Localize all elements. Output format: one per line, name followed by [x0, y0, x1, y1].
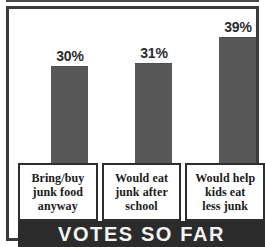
category-line-3-1: Would help: [195, 171, 255, 185]
bar-rect-3: [219, 37, 256, 163]
category-line-2-1: Would eat: [115, 171, 168, 185]
chart-outer-frame: 30% 31% 39% Bring/buy junk food anyway: [6, 6, 259, 241]
category-line-2-3: school: [125, 199, 158, 213]
category-label-3: Would help kids eat less junk: [195, 171, 255, 213]
category-label-row: Bring/buy junk food anyway Would eat jun…: [18, 163, 265, 221]
bar-group-2: 31%: [115, 18, 193, 163]
votes-bar-chart: 30% 31% 39% Bring/buy junk food anyway: [0, 0, 265, 247]
category-box-2: Would eat junk after school: [102, 163, 182, 221]
votes-so-far-banner: VOTES SO FAR: [18, 221, 265, 247]
category-label-1: Bring/buy junk food anyway: [31, 171, 84, 213]
category-line-1-2: junk food: [33, 185, 84, 199]
bar-value-label-2: 31%: [115, 46, 193, 61]
category-line-1-3: anyway: [38, 199, 78, 213]
bar-rect-1: [51, 66, 88, 163]
category-line-2-2: junk after: [115, 185, 168, 199]
bar-rect-2: [135, 63, 172, 163]
bar-value-label-3: 39%: [199, 20, 265, 35]
category-box-3: Would help kids eat less junk: [185, 163, 265, 221]
category-label-2: Would eat junk after school: [115, 171, 168, 213]
bar-value-label-1: 30%: [31, 49, 109, 64]
votes-so-far-label: VOTES SO FAR: [58, 224, 225, 244]
category-line-1-1: Bring/buy: [31, 171, 84, 185]
plot-area: 30% 31% 39%: [18, 18, 265, 163]
bar-group-3: 39%: [199, 18, 265, 163]
category-box-1: Bring/buy junk food anyway: [18, 163, 98, 221]
bar-group-1: 30%: [31, 18, 109, 163]
category-line-3-2: kids eat: [205, 185, 245, 199]
category-line-3-3: less junk: [202, 199, 248, 213]
